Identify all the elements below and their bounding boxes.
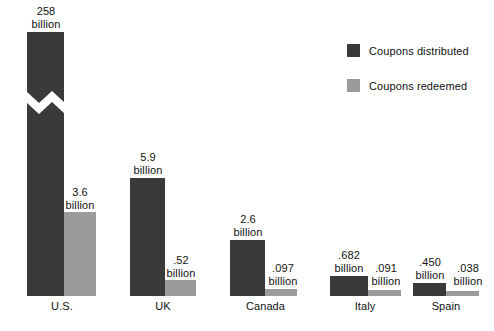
category-label-canada: Canada	[238, 300, 293, 312]
bar-canada-coupons-redeemed	[265, 289, 297, 296]
bar-us-coupons-distributed	[27, 32, 64, 296]
value-unit: billion	[56, 199, 104, 212]
axis-break-icon	[26, 86, 65, 116]
legend-item-coupons-redeemed: Coupons redeemed	[347, 79, 467, 92]
value-number: .091	[362, 262, 410, 275]
legend-swatch-coupons-redeemed	[347, 79, 360, 92]
value-unit: billion	[124, 164, 172, 177]
value-label-us-coupons-distributed: 258 billion	[22, 5, 70, 30]
legend-label-coupons-redeemed: Coupons redeemed	[369, 80, 467, 92]
value-unit: billion	[362, 275, 410, 288]
value-number: 3.6	[56, 186, 104, 199]
bar-uk-coupons-redeemed	[165, 280, 196, 296]
value-number: 2.6	[224, 213, 272, 226]
bar-spain-coupons-distributed	[413, 283, 446, 296]
bar-chart: Coupons distributed Coupons redeemed 258…	[0, 0, 494, 331]
value-label-uk-coupons-redeemed: .52 billion	[157, 254, 205, 279]
legend-swatch-coupons-distributed	[347, 44, 360, 57]
value-unit: billion	[258, 275, 308, 288]
value-number: .038	[444, 262, 492, 275]
value-label-italy-coupons-redeemed: .091 billion	[362, 262, 410, 287]
value-number: 5.9	[124, 151, 172, 164]
category-label-spain: Spain	[420, 300, 472, 312]
value-unit: billion	[224, 226, 272, 239]
value-number: .682	[325, 249, 373, 262]
bar-us-coupons-redeemed	[64, 212, 96, 296]
bar-italy-coupons-redeemed	[368, 290, 401, 296]
value-unit: billion	[157, 267, 205, 280]
value-label-us-coupons-redeemed: 3.6 billion	[56, 186, 104, 211]
value-label-canada-coupons-redeemed: .097 billion	[258, 262, 308, 287]
legend-item-coupons-distributed: Coupons distributed	[347, 44, 469, 57]
value-label-spain-coupons-redeemed: .038 billion	[444, 262, 492, 287]
category-label-uk: UK	[138, 300, 188, 312]
category-label-us: U.S.	[37, 300, 87, 312]
value-label-uk-coupons-distributed: 5.9 billion	[124, 151, 172, 176]
legend-label-coupons-distributed: Coupons distributed	[369, 45, 469, 57]
value-label-canada-coupons-distributed: 2.6 billion	[224, 213, 272, 238]
value-number: 258	[22, 5, 70, 18]
bar-spain-coupons-redeemed	[446, 291, 479, 296]
category-label-italy: Italy	[340, 300, 390, 312]
value-unit: billion	[22, 18, 70, 31]
value-number: .52	[157, 254, 205, 267]
value-unit: billion	[444, 275, 492, 288]
value-number: .097	[258, 262, 308, 275]
